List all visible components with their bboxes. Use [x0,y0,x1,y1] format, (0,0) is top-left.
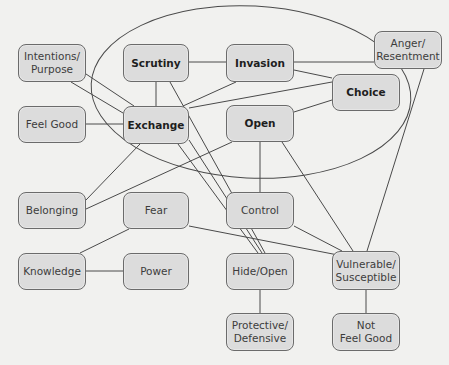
node-label: Not Feel Good [340,319,392,345]
node-label: Scrutiny [131,57,180,70]
edge-fear-knowledge [80,229,129,253]
node-power: Power [123,253,189,290]
node-label: Open [244,117,275,130]
edge-control-vulnerable [294,226,342,251]
node-invasion: Invasion [226,44,294,82]
edge-invasion-exchange [183,82,236,106]
node-label: Feel Good [26,118,78,131]
node-label: Exchange [128,119,185,132]
node-anger: Anger/ Resentment [374,31,442,69]
node-protective: Protective/ Defensive [226,313,294,351]
concept-map-diagram: Intentions/ PurposeScrutinyInvasionAnger… [0,0,449,365]
node-intentions: Intentions/ Purpose [18,44,86,82]
node-knowledge: Knowledge [18,253,86,290]
node-label: Fear [145,204,168,217]
node-control: Control [226,192,294,229]
node-label: Protective/ Defensive [232,319,288,345]
node-label: Invasion [235,57,285,70]
node-label: Belonging [26,204,79,217]
node-vulnerable: Vulnerable/ Susceptible [332,251,400,290]
node-label: Intentions/ Purpose [24,50,80,76]
node-scrutiny: Scrutiny [123,44,189,82]
node-label: Power [140,265,172,278]
node-exchange: Exchange [123,106,189,144]
node-choice: Choice [332,74,400,111]
edge-invasion-choice [294,70,332,78]
edge-open-choice [294,100,332,112]
node-label: Choice [346,86,385,99]
node-label: Anger/ Resentment [376,37,439,63]
node-label: Knowledge [23,265,81,278]
node-feel-good: Feel Good [18,106,86,143]
node-label: Vulnerable/ Susceptible [336,258,397,284]
node-open: Open [226,105,294,142]
node-hide-open: Hide/Open [226,253,294,290]
node-not-feel-good: Not Feel Good [332,313,400,351]
node-label: Hide/Open [232,265,288,278]
node-fear: Fear [123,192,189,229]
node-belonging: Belonging [18,192,86,229]
node-label: Control [241,204,279,217]
